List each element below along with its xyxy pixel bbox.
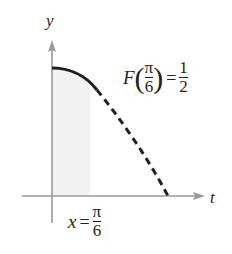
y-axis-label: y [46, 12, 54, 29]
x-marker-annotation: x=π6 [68, 204, 101, 239]
value-numerator: 1 [179, 60, 188, 76]
function-name: F [123, 67, 135, 88]
right-paren: ) [153, 61, 163, 94]
graph-svg [0, 0, 232, 254]
left-paren: ( [135, 61, 145, 94]
value-denominator: 2 [179, 79, 188, 95]
arg-denominator: 6 [145, 79, 154, 95]
function-value-annotation: F(π6)=12 [123, 60, 188, 95]
x-fraction: π6 [93, 204, 102, 239]
shaded-area [52, 68, 90, 196]
x-denominator: 6 [93, 223, 102, 239]
x-numerator: π [93, 204, 102, 220]
argument-fraction: π6 [145, 60, 154, 95]
curve-dashed [97, 90, 168, 196]
x-variable: x [68, 211, 76, 232]
t-axis-label: t [210, 189, 215, 206]
equals-sign: = [166, 68, 176, 88]
value-fraction: 12 [179, 60, 188, 95]
equals-sign: = [79, 212, 89, 232]
diagram: y t F(π6)=12 x=π6 [0, 0, 232, 254]
arg-numerator: π [145, 60, 154, 76]
